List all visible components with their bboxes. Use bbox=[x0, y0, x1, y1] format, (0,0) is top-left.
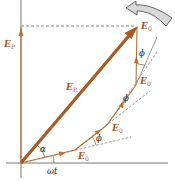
phi-arc-3 bbox=[136, 63, 145, 65]
phasor-2 bbox=[75, 125, 107, 150]
resultant-phasor bbox=[21, 31, 133, 163]
resultant-label: ER bbox=[65, 82, 78, 93]
phasor-1-arrowhead-icon bbox=[59, 152, 67, 157]
phasor-4 bbox=[136, 27, 137, 85]
alpha-label: α bbox=[40, 144, 46, 154]
phasor-2-label: E0 bbox=[111, 123, 123, 134]
ep-label: EP bbox=[3, 39, 15, 50]
omega-t-arc bbox=[53, 156, 54, 164]
omega-t-label: ωt bbox=[47, 166, 58, 176]
phi-label-1: ϕ bbox=[96, 133, 102, 143]
phasor-3-label: E0 bbox=[139, 76, 151, 87]
phasor-4-arrowhead-icon bbox=[134, 56, 139, 63]
phasor-1-label: E0 bbox=[77, 151, 89, 162]
phasor-4-tip-label: E0 bbox=[140, 21, 152, 32]
phi-label-3: ϕ bbox=[139, 48, 145, 58]
phi-label-2: ϕ bbox=[123, 93, 129, 103]
phasor-diagram: EP ER E0 E0 E0 E0 α ωt ϕ ϕ ϕ bbox=[0, 0, 175, 190]
rotation-arrow-icon bbox=[126, 1, 172, 26]
ep-arrowhead-icon bbox=[19, 28, 24, 36]
